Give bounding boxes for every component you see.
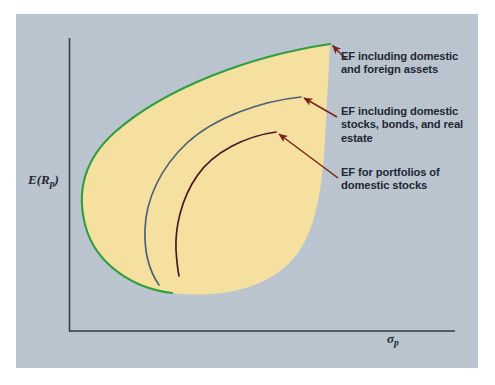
annotation-ef-global: EF including domestic and foreign assets — [341, 50, 483, 77]
x-axis-label-subscript: p — [394, 338, 399, 348]
y-axis-label: E(Rp) — [28, 172, 59, 189]
annotation-ef-multiasset: EF including domestic stocks, bonds, and… — [341, 105, 483, 145]
y-axis-label-close: ) — [54, 172, 58, 187]
x-axis-label-main: σ — [387, 331, 394, 346]
annotation-ef-domestic-stocks: EF for portfolios of domestic stocks — [341, 166, 483, 193]
figure-container: E(Rp) σp EF including domestic and forei… — [0, 0, 495, 385]
y-axis-label-main: E(R — [28, 172, 50, 187]
x-axis-label: σp — [387, 331, 399, 348]
feasible-region — [82, 44, 330, 295]
